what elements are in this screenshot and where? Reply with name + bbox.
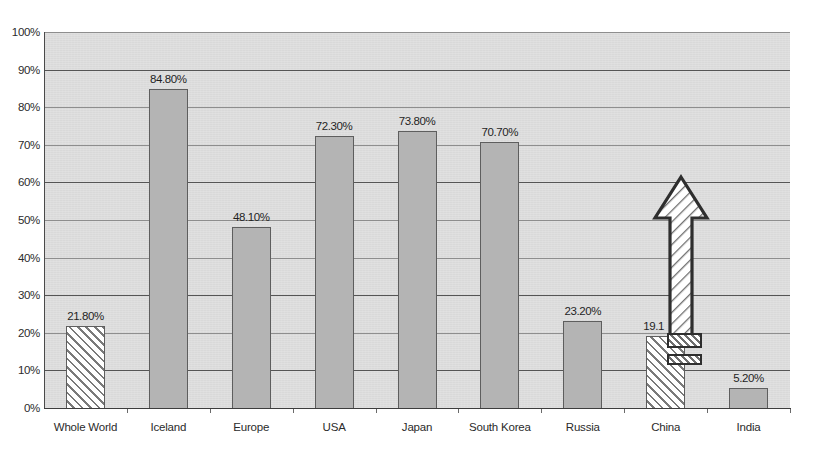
- bar-iceland: [149, 89, 188, 409]
- gridline-100: [44, 32, 790, 33]
- bar-japan: [398, 131, 437, 409]
- gridline-90: [44, 70, 790, 71]
- category-label-usa: USA: [323, 421, 346, 433]
- y-tick-label-80: 80%: [0, 101, 40, 113]
- y-tick-label-70: 70%: [0, 139, 40, 151]
- bar-usa: [315, 136, 354, 409]
- value-label-iceland: 84.80%: [150, 73, 187, 85]
- bar-russia: [563, 321, 602, 409]
- y-tick-label-10: 10%: [0, 364, 40, 376]
- x-tick-0: [127, 409, 128, 413]
- category-label-japan: Japan: [402, 421, 432, 433]
- y-tick-label-50: 50%: [0, 214, 40, 226]
- x-tick-4: [458, 409, 459, 413]
- x-tick-3: [376, 409, 377, 413]
- x-tick-5: [541, 409, 542, 413]
- category-label-south-korea: South Korea: [469, 421, 531, 433]
- category-label-china: China: [651, 421, 680, 433]
- growth-arrow-icon: [651, 174, 711, 338]
- bar-chart: 0%10%20%30%40%50%60%70%80%90%100% 21.80%…: [0, 0, 829, 454]
- bar-europe: [232, 227, 271, 409]
- y-axis-tick-labels: 0%10%20%30%40%50%60%70%80%90%100%: [0, 0, 40, 454]
- value-label-whole-world: 21.80%: [67, 310, 104, 322]
- arrow-tail-rect-lower: [667, 354, 702, 365]
- value-label-europe: 48.10%: [233, 211, 270, 223]
- y-tick-label-20: 20%: [0, 327, 40, 339]
- category-label-whole-world: Whole World: [54, 421, 117, 433]
- category-label-russia: Russia: [566, 421, 600, 433]
- y-tick-label-100: 100%: [0, 26, 40, 38]
- y-tick-label-60: 60%: [0, 176, 40, 188]
- category-label-iceland: Iceland: [150, 421, 186, 433]
- bar-india: [729, 388, 768, 409]
- y-tick-label-90: 90%: [0, 64, 40, 76]
- x-tick-2: [293, 409, 294, 413]
- value-label-india: 5.20%: [733, 372, 764, 384]
- y-axis-line: [44, 32, 45, 409]
- value-label-south-korea: 70.70%: [482, 126, 519, 138]
- x-tick-1: [210, 409, 211, 413]
- value-label-usa: 72.30%: [316, 120, 353, 132]
- value-label-japan: 73.80%: [399, 115, 436, 127]
- y-tick-label-40: 40%: [0, 252, 40, 264]
- category-label-india: India: [737, 421, 761, 433]
- y-tick-label-0: 0%: [0, 402, 40, 414]
- x-axis-line: [44, 408, 791, 409]
- bar-south-korea: [480, 142, 519, 409]
- x-tick-8: [790, 409, 791, 413]
- x-tick-7: [707, 409, 708, 413]
- bar-whole-world: [66, 326, 105, 409]
- arrow-tail-rect-upper: [667, 333, 702, 348]
- category-label-europe: Europe: [233, 421, 269, 433]
- value-label-russia: 23.20%: [564, 305, 601, 317]
- y-tick-label-30: 30%: [0, 289, 40, 301]
- x-tick-6: [624, 409, 625, 413]
